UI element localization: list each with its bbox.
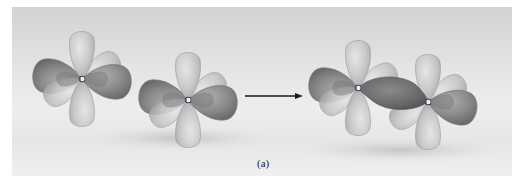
figure-caption-label: (a) [257, 157, 269, 169]
reaction-arrow [245, 93, 303, 99]
atom-label-carbon-4: C [425, 97, 431, 107]
shadow [300, 138, 500, 162]
bonded-orbital-system [307, 41, 479, 150]
atom-label-carbon-2: C [185, 95, 191, 105]
atom-label-carbon-3: C [355, 83, 361, 93]
atom-label-carbon-1: C [79, 74, 85, 84]
